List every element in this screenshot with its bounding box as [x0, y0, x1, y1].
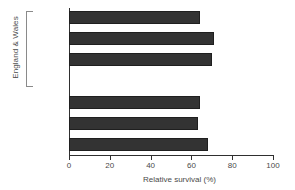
x-axis-tick: [273, 156, 274, 160]
bar: [69, 138, 208, 151]
x-axis-title-text: Relative survival (%): [143, 175, 216, 184]
x-axis-tick-label: 40: [146, 161, 155, 170]
bar: [69, 117, 198, 130]
x-axis-tick: [191, 156, 192, 160]
bar-row: Europe: [69, 117, 198, 130]
x-axis-title: Relative survival (%): [0, 175, 295, 184]
bar-row: Highest region: [69, 53, 212, 66]
bar-chart: England & Wales National averageAffluent…: [0, 0, 295, 190]
bar: [69, 32, 214, 45]
x-axis-tick-label: 80: [228, 161, 237, 170]
bar: [69, 11, 200, 24]
x-axis-tick-label: 0: [67, 161, 71, 170]
bar-row: National average: [69, 11, 200, 24]
bar-row: Affluent: [69, 32, 214, 45]
x-axis-line: [69, 155, 274, 156]
group-bracket: [26, 11, 33, 87]
x-axis-tick: [151, 156, 152, 160]
x-axis-tick-label: 100: [266, 161, 279, 170]
x-axis-tick: [232, 156, 233, 160]
x-axis-tick-label: 60: [187, 161, 196, 170]
bar: [69, 96, 200, 109]
plot-area: National averageAffluentHighest regionSc…: [69, 8, 273, 153]
bar-row: Scotland: [69, 96, 200, 109]
group-axis-label-england-wales: England & Wales: [11, 5, 20, 91]
x-axis-tick: [110, 156, 111, 160]
bar-row: USA: [69, 138, 208, 151]
bar: [69, 53, 212, 66]
x-axis-tick: [69, 156, 70, 160]
x-axis-tick-label: 20: [105, 161, 114, 170]
